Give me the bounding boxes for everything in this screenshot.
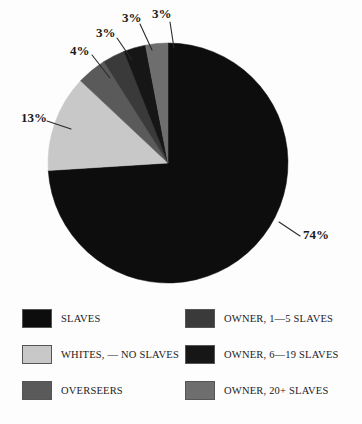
pct-label-owner-20plus: 3% <box>152 6 172 22</box>
legend-swatch-owner-6-19 <box>185 345 215 364</box>
legend-label-owner-20plus: OWNER, 20+ SLAVES <box>224 385 329 396</box>
legend-column-left: SLAVES WHITES, — NO SLAVES OVERSEERS <box>22 300 192 408</box>
legend-item-whites[interactable]: WHITES, — NO SLAVES <box>22 336 192 372</box>
legend-label-owner-1-5: OWNER, 1—5 SLAVES <box>224 313 333 324</box>
legend-item-owner-20plus[interactable]: OWNER, 20+ SLAVES <box>185 372 355 408</box>
legend-swatch-overseers <box>22 381 52 400</box>
pct-label-owner-1-5: 3% <box>96 25 116 41</box>
pct-label-slaves: 74% <box>303 227 329 243</box>
pct-label-overseers: 4% <box>70 43 90 59</box>
legend-swatch-owner-20plus <box>185 381 215 400</box>
legend-item-slaves[interactable]: SLAVES <box>22 300 192 336</box>
legend-swatch-whites <box>22 345 52 364</box>
pie-chart-plot-area: 3% 3% 3% 4% 13% 74% <box>0 0 362 295</box>
legend-item-owner-1-5[interactable]: OWNER, 1—5 SLAVES <box>185 300 355 336</box>
pie-chart-svg <box>0 0 362 295</box>
legend-item-overseers[interactable]: OVERSEERS <box>22 372 192 408</box>
leader-line-slaves <box>279 222 300 236</box>
legend-label-overseers: OVERSEERS <box>61 385 123 396</box>
legend-label-whites: WHITES, — NO SLAVES <box>61 349 179 360</box>
pct-label-owner-6-19: 3% <box>122 10 142 26</box>
legend-swatch-slaves <box>22 309 52 328</box>
legend-column-right: OWNER, 1—5 SLAVES OWNER, 6—19 SLAVES OWN… <box>185 300 355 408</box>
pie-chart-figure: 3% 3% 3% 4% 13% 74% SLAVES WHITES, — NO … <box>0 0 362 424</box>
pie-slices <box>48 43 288 283</box>
legend-label-owner-6-19: OWNER, 6—19 SLAVES <box>224 349 339 360</box>
pct-label-whites: 13% <box>21 110 47 126</box>
legend-item-owner-6-19[interactable]: OWNER, 6—19 SLAVES <box>185 336 355 372</box>
legend-swatch-owner-1-5 <box>185 309 215 328</box>
chart-legend: SLAVES WHITES, — NO SLAVES OVERSEERS OWN… <box>22 300 342 412</box>
legend-label-slaves: SLAVES <box>61 313 101 324</box>
